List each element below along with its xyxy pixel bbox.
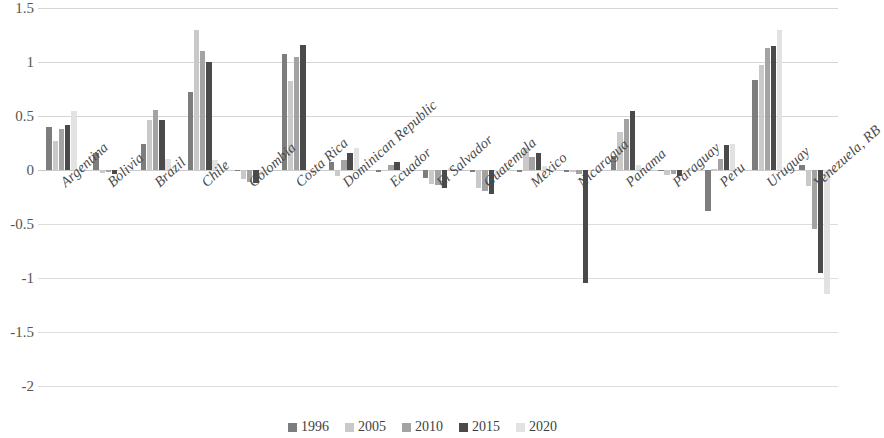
bar xyxy=(347,153,352,170)
y-axis-tick-label: 0 xyxy=(0,163,34,178)
bar xyxy=(523,148,528,170)
legend-label: 2020 xyxy=(529,420,557,434)
bar-group xyxy=(556,8,603,386)
bar xyxy=(529,157,534,170)
legend-swatch xyxy=(288,423,297,432)
bar xyxy=(683,170,688,172)
bar xyxy=(376,170,381,172)
legend-label: 2015 xyxy=(472,420,500,434)
y-axis-tick-label: 1.5 xyxy=(0,1,34,16)
bar xyxy=(730,144,735,170)
legend-swatch xyxy=(402,423,411,432)
bar xyxy=(307,170,312,171)
bar xyxy=(705,170,710,211)
bar-group xyxy=(791,8,838,386)
bar xyxy=(46,127,51,170)
bar xyxy=(435,170,440,185)
bar xyxy=(100,170,105,173)
bar-group xyxy=(650,8,697,386)
bar xyxy=(589,170,594,171)
bar xyxy=(71,111,76,170)
y-axis-tick-label: 1 xyxy=(0,55,34,70)
bar xyxy=(570,170,575,172)
bar xyxy=(517,170,522,172)
bar xyxy=(335,170,340,176)
bar xyxy=(636,165,641,170)
legend-item[interactable]: 1996 xyxy=(288,420,329,434)
bar xyxy=(247,170,252,182)
bar xyxy=(677,170,682,176)
y-axis-tick-label: -0.5 xyxy=(0,217,34,232)
bar xyxy=(777,30,782,170)
bar xyxy=(206,62,211,170)
y-axis-tick-label: 0.5 xyxy=(0,109,34,124)
bar-group xyxy=(462,8,509,386)
bar xyxy=(212,160,217,170)
bar xyxy=(65,125,70,170)
bar xyxy=(423,170,428,178)
bar-group xyxy=(273,8,320,386)
plot-area xyxy=(38,8,838,386)
bar xyxy=(394,162,399,170)
bar-group xyxy=(320,8,367,386)
bar xyxy=(495,170,500,175)
bar xyxy=(806,170,811,186)
bar-group xyxy=(38,8,85,386)
bar xyxy=(147,120,152,170)
y-axis-tick-label: -2 xyxy=(0,379,34,394)
bar-group xyxy=(367,8,414,386)
bar xyxy=(752,80,757,170)
bar xyxy=(294,57,299,170)
bar xyxy=(93,153,98,170)
bar xyxy=(576,170,581,174)
bar xyxy=(260,170,265,175)
bar-group xyxy=(179,8,226,386)
bar xyxy=(812,170,817,229)
gridline xyxy=(38,386,838,387)
bar xyxy=(724,145,729,170)
legend-item[interactable]: 2005 xyxy=(345,420,386,434)
bar-group xyxy=(85,8,132,386)
bar xyxy=(824,170,829,294)
bar xyxy=(165,159,170,170)
bar-group xyxy=(744,8,791,386)
bar-group xyxy=(226,8,273,386)
bar-group xyxy=(509,8,556,386)
bar xyxy=(470,170,475,172)
bar xyxy=(300,45,305,170)
legend-swatch xyxy=(459,423,468,432)
legend-item[interactable]: 2015 xyxy=(459,420,500,434)
bar xyxy=(482,170,487,191)
bar-groups xyxy=(38,8,838,386)
legend-swatch xyxy=(516,423,525,432)
bar xyxy=(718,159,723,170)
bar xyxy=(818,170,823,273)
bar xyxy=(476,170,481,188)
bar xyxy=(448,168,453,170)
bar xyxy=(630,111,635,170)
y-axis-tick-label: -1.5 xyxy=(0,325,34,340)
bar xyxy=(401,170,406,173)
bar xyxy=(241,170,246,179)
bar xyxy=(771,46,776,170)
bar xyxy=(388,165,393,170)
bar xyxy=(759,65,764,170)
bar xyxy=(106,170,111,172)
legend-label: 2010 xyxy=(415,420,443,434)
legend-item[interactable]: 2020 xyxy=(516,420,557,434)
bar xyxy=(799,165,804,170)
bar xyxy=(341,160,346,170)
y-axis-tick-label: -1 xyxy=(0,271,34,286)
bar xyxy=(253,170,258,183)
bar xyxy=(194,30,199,170)
legend-item[interactable]: 2010 xyxy=(402,420,443,434)
bar xyxy=(59,129,64,170)
bar xyxy=(188,92,193,170)
bar-group xyxy=(414,8,461,386)
bar xyxy=(617,132,622,170)
bar xyxy=(53,141,58,170)
legend-label: 2005 xyxy=(358,420,386,434)
chart-legend: 19962005201020152020 xyxy=(0,420,845,434)
bar-group xyxy=(603,8,650,386)
